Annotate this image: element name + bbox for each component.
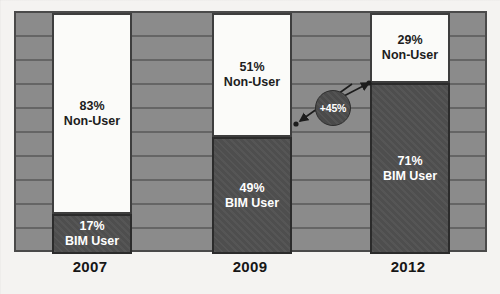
stacked-bar-chart-figure: 83% Non-User 17% BIM User 51% Non-User 4… (0, 0, 500, 294)
bar-segment-bimuser-2007[interactable]: 17% BIM User (52, 214, 132, 254)
bar-segment-bimuser-2012[interactable]: 71% BIM User (370, 83, 450, 254)
segment-percent-label: 29% (397, 33, 422, 48)
plot-area: 83% Non-User 17% BIM User 51% Non-User 4… (14, 11, 487, 252)
segment-percent-label: 49% (239, 181, 264, 196)
segment-series-label: BIM User (225, 196, 279, 211)
bar-segment-nonuser-2012[interactable]: 29% Non-User (370, 13, 450, 83)
bars-layer: 83% Non-User 17% BIM User 51% Non-User 4… (16, 13, 485, 250)
bar-group-2012[interactable]: 29% Non-User 71% BIM User (370, 13, 450, 250)
segment-percent-label: 83% (79, 99, 104, 114)
segment-series-label: BIM User (383, 169, 437, 184)
x-axis-tick-2012: 2012 (391, 258, 426, 275)
segment-series-label: Non-User (64, 114, 120, 129)
x-axis-tick-2009: 2009 (233, 258, 268, 275)
bar-segment-nonuser-2007[interactable]: 83% Non-User (52, 13, 132, 214)
segment-percent-label: 51% (239, 60, 264, 75)
segment-percent-label: 17% (79, 219, 104, 234)
bar-segment-nonuser-2009[interactable]: 51% Non-User (212, 13, 292, 137)
bar-group-2009[interactable]: 51% Non-User 49% BIM User (212, 13, 292, 250)
segment-series-label: Non-User (224, 75, 280, 90)
segment-series-label: BIM User (65, 234, 119, 249)
x-axis-tick-2007: 2007 (73, 258, 108, 275)
x-axis-labels: 2007 2009 2012 (0, 258, 500, 288)
segment-percent-label: 71% (397, 154, 422, 169)
bar-group-2007[interactable]: 83% Non-User 17% BIM User (52, 13, 132, 250)
bar-segment-bimuser-2009[interactable]: 49% BIM User (212, 137, 292, 254)
segment-series-label: Non-User (382, 48, 438, 63)
